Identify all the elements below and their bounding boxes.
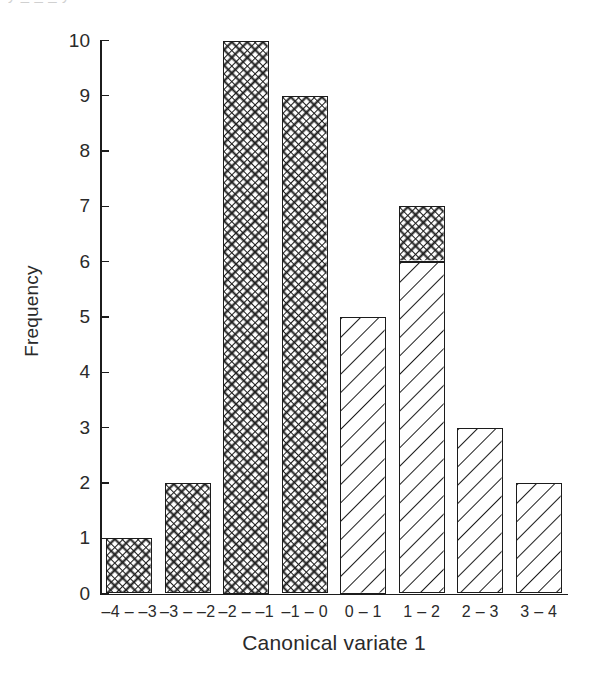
y-axis-tick-label: 3 (56, 418, 90, 437)
y-axis-tick-label: 9 (56, 86, 90, 105)
histogram-bar (223, 41, 269, 594)
x-axis-tick-label: –1 – 0 (276, 603, 335, 621)
x-axis-title: Canonical variate 1 (100, 631, 568, 655)
histogram-bar (106, 41, 152, 594)
histogram-bar (340, 41, 386, 594)
bar-segment-diagonal-hatch (340, 317, 386, 594)
y-axis-tick-label: 5 (56, 307, 90, 326)
x-axis-tick-label: –4 – –3 (100, 603, 159, 621)
x-axis-tick-label: 0 – 1 (334, 603, 393, 621)
x-axis-line (100, 594, 568, 596)
bar-segment-cross-hatch (399, 206, 445, 261)
x-axis-tick-label: –3 – –2 (159, 603, 218, 621)
y-axis-tick-label: 7 (56, 196, 90, 215)
y-axis-tick-label: 0 (56, 584, 90, 603)
plot-area: 012345678910 Frequency –4 – –3–3 – –2–2 … (0, 0, 595, 679)
x-axis-tick-label: 3 – 4 (510, 603, 569, 621)
histogram-bar (399, 41, 445, 594)
bar-segment-diagonal-hatch (399, 262, 445, 594)
x-axis-tick-label: –2 – –1 (217, 603, 276, 621)
y-axis-tick-label: 2 (56, 473, 90, 492)
bar-segment-cross-hatch (165, 483, 211, 594)
x-axis-tick-label: 2 – 3 (451, 603, 510, 621)
y-axis-tick-label: 6 (56, 252, 90, 271)
histogram-bar (516, 41, 562, 594)
bar-segment-cross-hatch (282, 96, 328, 594)
histogram-bar (282, 41, 328, 594)
bar-segment-cross-hatch (106, 538, 152, 593)
y-axis-tick-label: 10 (56, 31, 90, 50)
bar-segment-diagonal-hatch (516, 483, 562, 594)
bar-segment-cross-hatch (223, 41, 269, 594)
y-axis-title: Frequency (21, 241, 43, 381)
x-axis-tick-label: 1 – 2 (393, 603, 452, 621)
histogram-figure: y _ _ _ y 012345678910 Frequency –4 – –3… (0, 0, 595, 679)
histogram-bar (165, 41, 211, 594)
y-axis-tick-label: 1 (56, 528, 90, 547)
y-axis-tick-label: 4 (56, 362, 90, 381)
y-axis-tick-label: 8 (56, 141, 90, 160)
bar-segment-diagonal-hatch (457, 428, 503, 594)
histogram-bar (457, 41, 503, 594)
